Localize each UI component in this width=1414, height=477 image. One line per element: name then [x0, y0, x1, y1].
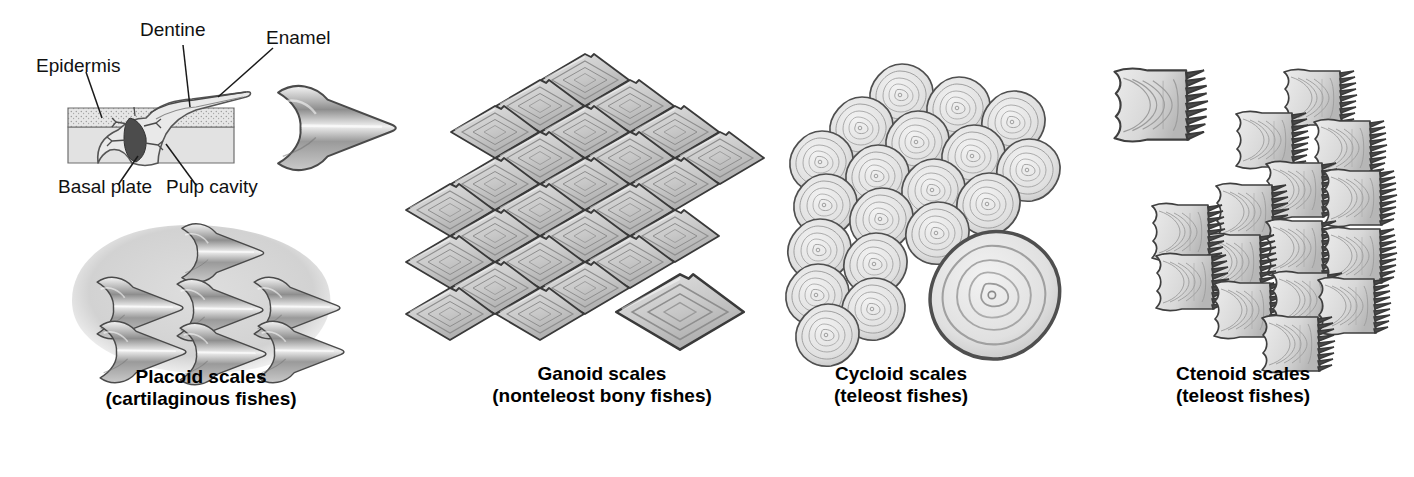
fish-scale-types-figure: Epidermis Dentine Enamel Basal plate Pul…: [0, 0, 1414, 477]
caption-cycloid: Cycloid scales (teleost fishes): [790, 363, 1012, 407]
label-epidermis: Epidermis: [36, 56, 120, 76]
placoid-denticle-isolated: [278, 86, 396, 170]
label-basal-plate: Basal plate: [58, 177, 152, 197]
label-pulp-cavity: Pulp cavity: [166, 177, 258, 197]
placoid-cluster: [72, 224, 344, 385]
caption-ctenoid: Ctenoid scales (teleost fishes): [1132, 363, 1354, 407]
caption-ganoid-line1: Ganoid scales: [448, 363, 756, 385]
caption-ctenoid-line1: Ctenoid scales: [1132, 363, 1354, 385]
ctenoid-scale-isolated: [1114, 69, 1207, 142]
caption-ganoid: Ganoid scales (nonteleost bony fishes): [448, 363, 756, 407]
caption-placoid: Placoid scales (cartilaginous fishes): [46, 366, 356, 410]
label-dentine: Dentine: [140, 20, 206, 40]
caption-placoid-line2: (cartilaginous fishes): [46, 388, 356, 410]
caption-ctenoid-line2: (teleost fishes): [1132, 385, 1354, 407]
caption-cycloid-line1: Cycloid scales: [790, 363, 1012, 385]
label-enamel: Enamel: [266, 28, 330, 48]
caption-cycloid-line2: (teleost fishes): [790, 385, 1012, 407]
caption-placoid-line1: Placoid scales: [46, 366, 356, 388]
caption-ganoid-line2: (nonteleost bony fishes): [448, 385, 756, 407]
